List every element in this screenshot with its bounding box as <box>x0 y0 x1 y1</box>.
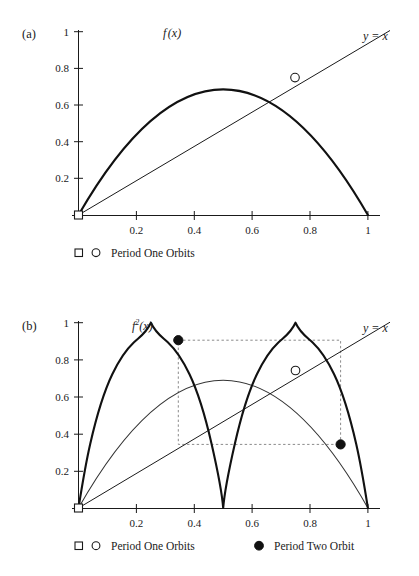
panel-a-ytick-0.8: 0.8 <box>55 62 69 74</box>
panel-a-tag: (a) <box>22 27 36 41</box>
legend-circle-filled-icon-b <box>255 541 264 550</box>
panel-b-xtick-0.2: 0.2 <box>130 517 144 529</box>
panel-a-marker-circle-fixedpoint <box>291 73 300 82</box>
panel-a-xtick-1: 1 <box>365 224 371 236</box>
panel-a-xtick-0.8: 0.8 <box>303 224 317 236</box>
panel-b-period-two-guides <box>178 340 340 444</box>
panel-b-tag: (b) <box>22 319 37 333</box>
legend-square-open-icon-b <box>75 542 83 550</box>
panel-b-ytick-0.4: 0.4 <box>55 428 69 440</box>
panel-b-xtick-0.4: 0.4 <box>187 517 201 529</box>
panel-a: (a) 1 0.8 0.6 0.4 0.2 0.2 <box>22 26 390 260</box>
legend-square-open-icon-a <box>75 249 83 257</box>
panel-a-xtick-0.2: 0.2 <box>130 224 144 236</box>
panel-b-ytick-0.2: 0.2 <box>55 465 69 477</box>
panel-b-y-tick-labels: 1 0.8 0.6 0.4 0.2 <box>55 317 69 478</box>
panel-a-xtick-0.6: 0.6 <box>245 224 259 236</box>
legend-circle-open-icon-a <box>92 249 100 257</box>
panel-a-curve-label: f(x) <box>163 26 181 40</box>
panel-b-marker-circle-fixedpoint <box>291 366 300 375</box>
panel-b-ytick-0.8: 0.8 <box>55 354 69 366</box>
panel-b-curve-label: f2(x) <box>132 318 153 333</box>
svg-text:f(x): f(x) <box>163 26 181 40</box>
panel-b-diagonal-label: y = x <box>362 321 388 335</box>
panel-a-ytick-0.6: 0.6 <box>55 99 69 111</box>
panel-b-ytick-1: 1 <box>64 317 70 329</box>
legend-circle-open-icon-b <box>92 542 100 550</box>
panel-a-curve-f <box>79 89 368 215</box>
panel-b-guide-rect <box>178 340 340 444</box>
panel-b-ytick-0.6: 0.6 <box>55 391 69 403</box>
panel-a-diagonal-line <box>79 31 391 216</box>
panel-a-xtick-0.4: 0.4 <box>187 224 201 236</box>
panel-a-label-f-arg: (x) <box>168 26 181 40</box>
panel-a-legend: Period One Orbits <box>75 247 195 259</box>
panel-b-legend: Period One Orbits Period Two Orbit <box>75 540 355 552</box>
panel-b-marker-dot-period-two-low <box>174 336 183 345</box>
panel-b-legend-period-one-label: Period One Orbits <box>111 540 195 552</box>
figure-root: (a) 1 0.8 0.6 0.4 0.2 0.2 <box>0 0 419 576</box>
svg-text:f2(x): f2(x) <box>132 318 153 333</box>
panel-a-ytick-0.2: 0.2 <box>55 172 69 184</box>
panel-b-label-f-arg: (x) <box>139 319 152 333</box>
panel-a-legend-period-one-label: Period One Orbits <box>111 247 195 259</box>
panel-b-xtick-0.6: 0.6 <box>245 517 259 529</box>
panel-a-y-tick-labels: 1 0.8 0.6 0.4 0.2 <box>55 26 69 185</box>
panel-b: (b) 1 0.8 0.6 0.4 0.2 0.2 <box>22 317 390 553</box>
panel-b-x-tick-labels: 0.2 0.4 0.6 0.8 1 <box>130 517 371 529</box>
panel-a-ytick-1: 1 <box>64 26 70 38</box>
panel-b-curve-f <box>79 380 368 508</box>
panel-b-diagonal-line <box>79 322 391 508</box>
panel-b-marker-square-origin <box>75 504 83 512</box>
panel-b-legend-period-two-label: Period Two Orbit <box>274 540 355 552</box>
panel-a-marker-square-origin <box>75 211 83 219</box>
panel-a-ytick-0.4: 0.4 <box>55 136 69 148</box>
panel-b-curve-f2 <box>79 323 368 508</box>
panel-b-xtick-0.8: 0.8 <box>303 517 317 529</box>
panel-b-xtick-1: 1 <box>365 517 371 529</box>
panel-a-diagonal-label: y = x <box>362 29 388 43</box>
panel-a-x-tick-labels: 0.2 0.4 0.6 0.8 1 <box>130 224 371 236</box>
panel-b-marker-dot-period-two-high <box>336 440 345 449</box>
